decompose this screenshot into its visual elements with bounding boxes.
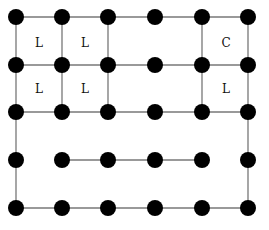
grid-dot — [100, 57, 116, 73]
grid-dot — [100, 9, 116, 25]
grid-dot — [147, 200, 163, 216]
grid-dot — [240, 200, 256, 216]
grid-dot — [194, 200, 210, 216]
grid-dot — [194, 9, 210, 25]
grid-dot — [54, 57, 70, 73]
grid-dot — [54, 152, 70, 168]
grid-dot — [240, 104, 256, 120]
grid-dot — [8, 104, 24, 120]
grid-dot — [194, 104, 210, 120]
grid-dot — [8, 200, 24, 216]
grid-dot — [54, 104, 70, 120]
grid-dot — [8, 152, 24, 168]
grid-dot — [194, 57, 210, 73]
grid-dot — [194, 152, 210, 168]
grid-dot — [240, 57, 256, 73]
grid-dot — [100, 200, 116, 216]
grid-dot — [54, 200, 70, 216]
grid-edges — [16, 17, 248, 208]
cell-label: L — [35, 82, 43, 96]
grid-dot — [147, 9, 163, 25]
dot-grid-diagram — [0, 0, 269, 230]
cell-label: L — [81, 36, 89, 50]
grid-dot — [100, 152, 116, 168]
grid-dot — [8, 57, 24, 73]
cell-label: L — [81, 82, 89, 96]
grid-dot — [147, 104, 163, 120]
cell-label: L — [222, 82, 230, 96]
grid-dot — [54, 9, 70, 25]
grid-dot — [100, 104, 116, 120]
grid-dot — [147, 152, 163, 168]
grid-dot — [240, 152, 256, 168]
cell-label: C — [221, 36, 230, 50]
cell-label: L — [35, 36, 43, 50]
grid-dot — [147, 57, 163, 73]
grid-dot — [240, 9, 256, 25]
grid-dot — [8, 9, 24, 25]
